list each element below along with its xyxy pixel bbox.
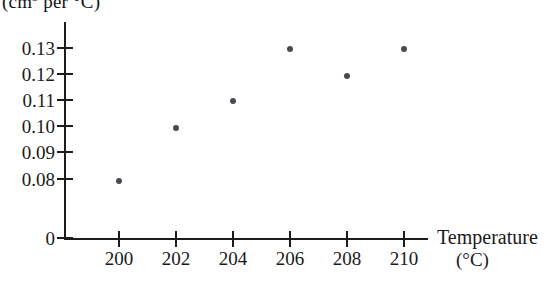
y-tick-0-11: [57, 99, 73, 101]
y-tick-0-13: [57, 47, 73, 49]
y-tick-label-0-12: 0.12: [1, 65, 55, 84]
y-tick-label-0-13: 0.13: [1, 39, 55, 58]
x-tick-204: [232, 231, 234, 247]
y-tick-0-12: [57, 73, 73, 75]
x-tick-label-208: 208: [317, 249, 377, 268]
point-200: [116, 178, 122, 184]
point-202: [173, 125, 179, 131]
point-210: [401, 46, 407, 52]
y-axis-tick-labels: 0.130.120.110.100.090.080: [0, 0, 55, 282]
y-tick-0-10: [57, 125, 73, 127]
y-tick-0-08: [57, 178, 73, 180]
y-tick-0-09: [57, 151, 73, 153]
x-tick-200: [118, 231, 120, 247]
x-tick-label-206: 206: [260, 249, 320, 268]
x-tick-label-202: 202: [146, 249, 206, 268]
y-tick-label-0: 0: [1, 229, 55, 248]
y-tick-label-0-08: 0.08: [1, 170, 55, 189]
y-tick-label-0-09: 0.09: [1, 143, 55, 162]
x-tick-label-210: 210: [374, 249, 434, 268]
y-tick-label-0-11: 0.11: [1, 91, 55, 110]
x-axis-unit-label: (°C): [456, 250, 489, 270]
x-tick-202: [175, 231, 177, 247]
y-tick-0: [57, 237, 73, 239]
point-208: [344, 73, 350, 79]
scatter-chart: (cm3 per °C) 0.130.120.110.100.090.080 2…: [0, 0, 551, 282]
x-tick-label-204: 204: [203, 249, 263, 268]
x-tick-208: [346, 231, 348, 247]
x-axis-title: Temperature: [437, 227, 538, 248]
point-204: [230, 98, 236, 104]
y-tick-label-0-10: 0.10: [1, 117, 55, 136]
x-tick-210: [403, 231, 405, 247]
y-axis-line: [64, 22, 66, 239]
x-tick-206: [289, 231, 291, 247]
x-tick-label-200: 200: [89, 249, 149, 268]
point-206: [287, 46, 293, 52]
